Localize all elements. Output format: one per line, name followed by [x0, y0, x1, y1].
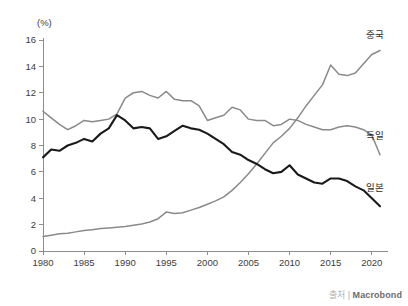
chart-container: 0246810121416 19801985199019952000200520… [0, 0, 408, 306]
series-line-1 [43, 91, 380, 154]
y-tick-label: 12 [25, 87, 36, 98]
series-group [43, 51, 380, 237]
y-tick-group: 0246810121416 [25, 34, 43, 256]
x-tick-label: 1985 [74, 257, 95, 268]
source-name: Macrobond [353, 290, 402, 300]
source-label: 출처 [329, 290, 345, 300]
series-label-0: 중국 [366, 29, 384, 40]
x-tick-label: 2000 [197, 257, 218, 268]
x-axis: 198019851990199520002005201020152020 [32, 251, 388, 268]
series-line-2 [43, 115, 380, 206]
y-tick-label: 6 [31, 166, 36, 177]
y-axis: 0246810121416 [25, 34, 43, 256]
x-tick-label: 1995 [156, 257, 177, 268]
x-tick-label: 2010 [279, 257, 300, 268]
y-tick-label: 8 [31, 140, 36, 151]
series-line-0 [43, 51, 380, 237]
y-tick-label: 14 [25, 61, 36, 72]
series-label-2: 일본 [366, 182, 384, 193]
y-tick-label: 10 [25, 114, 36, 125]
y-tick-label: 16 [25, 34, 36, 45]
x-tick-group: 198019851990199520002005201020152020 [32, 251, 382, 268]
series-label-1: 독일 [366, 130, 384, 141]
x-tick-label: 2015 [320, 257, 341, 268]
source-attribution: 출처 | Macrobond [329, 288, 402, 301]
x-tick-label: 1980 [32, 257, 53, 268]
x-tick-label: 2005 [238, 257, 259, 268]
x-tick-label: 1990 [115, 257, 136, 268]
source-separator: | [348, 290, 350, 300]
line-chart: 0246810121416 19801985199019952000200520… [0, 0, 408, 306]
y-axis-unit-label: (%) [37, 17, 52, 28]
y-tick-label: 0 [31, 245, 36, 256]
y-tick-label: 4 [31, 193, 36, 204]
x-tick-label: 2020 [361, 257, 382, 268]
y-tick-label: 2 [31, 219, 36, 230]
